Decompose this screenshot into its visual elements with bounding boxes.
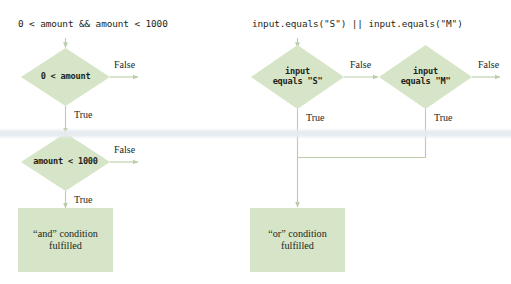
and-d1-true-label: True (74, 110, 93, 120)
and-expression-header: 0 < amount && amount < 1000 (18, 19, 168, 28)
terminal-box-and (18, 208, 113, 272)
or-d4-true-label: True (434, 113, 453, 123)
or-d3-false-label: False (350, 60, 371, 70)
flowchart-figure: 0 < amount && amount < 1000 0 < amount a… (0, 0, 511, 284)
and-d1-false-label: False (114, 60, 135, 70)
terminal-box-or (250, 208, 345, 272)
or-d4-false-label: False (478, 60, 499, 70)
flowchart-canvas (0, 0, 511, 284)
or-d3-true-label: True (306, 113, 325, 123)
decision-diamond-amount-less-1000 (21, 133, 110, 191)
decision-diamond-input-equals-m (379, 45, 472, 109)
and-d2-false-label: False (114, 145, 135, 155)
and-d2-true-label: True (74, 195, 93, 205)
or-expression-header: input.equals("S") || input.equals("M") (252, 19, 463, 28)
decision-diamond-input-equals-s (251, 45, 344, 109)
decision-diamond-0-less-amount (21, 48, 110, 106)
